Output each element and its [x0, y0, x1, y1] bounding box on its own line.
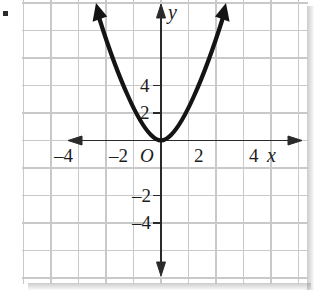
y-tick-label-2: 2	[140, 103, 150, 122]
bullet-marker	[3, 11, 8, 16]
x-tick-label-2: 2	[194, 146, 204, 165]
axes	[68, 4, 302, 276]
figure-canvas: –4 –2 2 4 4 2 –2 –4 O x y	[0, 0, 335, 302]
x-tick-label-neg4: –4	[54, 146, 73, 165]
grid-lines	[22, 0, 308, 284]
y-tick-label-neg4: –4	[132, 213, 151, 232]
x-tick-label-4: 4	[249, 146, 259, 165]
x-tick-label-neg2: –2	[109, 146, 128, 165]
y-axis-label: y	[168, 2, 177, 22]
x-axis-arrow-right	[288, 136, 302, 145]
origin-label: O	[140, 146, 154, 165]
x-axis-arrow-left	[68, 136, 82, 145]
curve-arrow-right	[215, 3, 230, 22]
y-tick-label-neg2: –2	[132, 186, 151, 205]
y-axis-arrow-up	[157, 4, 166, 18]
x-axis-label: x	[267, 145, 276, 165]
curve-arrow-left	[93, 3, 108, 22]
y-tick-label-4: 4	[140, 76, 150, 95]
y-axis-arrow-down	[157, 262, 166, 276]
graph-svg	[22, 0, 309, 285]
coordinate-plane: –4 –2 2 4 4 2 –2 –4 O x y	[22, 0, 309, 285]
y-axis-ticks	[153, 86, 161, 224]
